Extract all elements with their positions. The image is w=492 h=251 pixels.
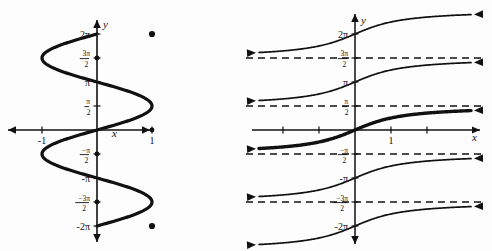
curve-marker-dot — [95, 200, 100, 205]
y-tick-label-numerator: −3π — [78, 194, 90, 203]
curve-marker-dot — [95, 56, 100, 61]
x-tick-label: -1 — [38, 135, 46, 146]
branch-left-arrowhead — [247, 49, 256, 57]
y-tick-denominator: 2 — [82, 204, 86, 213]
y-axis-label: y — [102, 18, 108, 30]
y-tick-denominator: 2 — [85, 60, 89, 69]
math-figure: xy-112π3π2ππ2−π2-π−3π2-2πxy12π3π2ππ2−π2-… — [0, 0, 492, 251]
y-tick-label-numerator: −π — [82, 146, 90, 155]
left-panel-inverse-sine: xy-112π3π2ππ2−π2-π−3π2-2π — [8, 18, 155, 242]
branch-left-arrowhead — [247, 97, 256, 105]
y-tick-denominator: 2 — [343, 156, 347, 165]
y-tick-label: -2π — [77, 221, 90, 232]
right-panel-inverse-tangent: xy12π3π2ππ2−π2-π−3π2-2π — [246, 10, 486, 249]
y-tick-label-numerator: 3π — [340, 49, 348, 58]
y-tick-denominator: 2 — [345, 108, 349, 117]
branch-right-arrowhead — [474, 10, 483, 18]
y-tick-label-numerator: −3π — [336, 194, 348, 203]
y-tick-denominator: 2 — [340, 204, 344, 213]
branch-left-arrowhead — [247, 193, 256, 201]
y-tick-denominator: 2 — [85, 156, 89, 165]
branch-right-arrowhead — [474, 202, 483, 210]
branch-left-arrowhead — [247, 241, 256, 249]
y-axis-top-arrowhead — [93, 20, 101, 28]
y-axis-bottom-arrowhead — [351, 236, 359, 244]
branch-right-arrowhead — [474, 106, 483, 114]
curve-endpoint-dot — [149, 31, 155, 37]
branch-right-arrowhead — [474, 154, 483, 162]
y-axis-label: y — [360, 14, 366, 26]
x-axis-right-arrowhead — [142, 126, 150, 134]
y-axis-top-arrowhead — [351, 14, 359, 22]
y-tick-label-numerator: π — [86, 97, 90, 106]
y-tick-denominator: 2 — [87, 108, 91, 117]
figure-canvas: xy-112π3π2ππ2−π2-π−3π2-2πxy12π3π2ππ2−π2-… — [0, 0, 492, 251]
x-tick-label: 1 — [389, 135, 394, 146]
y-tick-label-numerator: −π — [340, 146, 348, 155]
y-tick-denominator: 2 — [343, 60, 347, 69]
y-tick-label-numerator: π — [344, 97, 348, 106]
tangent-branch — [259, 159, 471, 197]
curve-endpoint-dot — [149, 223, 155, 229]
x-axis-label: x — [471, 131, 477, 143]
y-tick-label-numerator: 3π — [82, 49, 90, 58]
curve-marker-dot — [95, 152, 100, 157]
x-tick-label: 1 — [150, 135, 155, 146]
branch-right-arrowhead — [474, 58, 483, 66]
tangent-branch — [259, 207, 471, 245]
curve-marker-dot — [150, 128, 155, 133]
branch-left-arrowhead — [247, 145, 256, 153]
y-axis-bottom-arrowhead — [93, 234, 101, 242]
x-axis-left-arrowhead — [8, 126, 16, 134]
x-axis-label: x — [111, 127, 117, 139]
tangent-branch — [259, 63, 471, 101]
